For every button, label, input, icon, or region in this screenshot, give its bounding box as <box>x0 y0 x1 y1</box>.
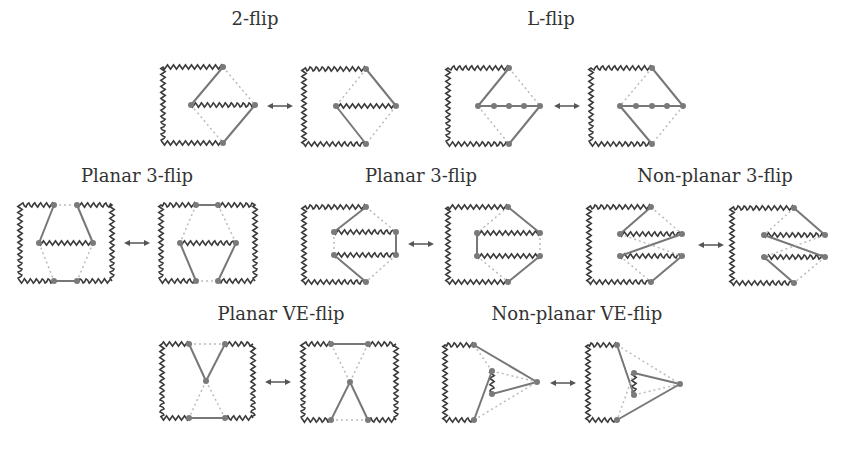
dotted-edge <box>764 208 794 235</box>
vertex-dot <box>822 254 828 260</box>
dotted-edge <box>509 68 540 106</box>
solid-edge <box>764 257 794 283</box>
wavy-boundary <box>443 343 474 422</box>
dotted-edge <box>477 207 508 233</box>
vertex-dot <box>679 253 685 259</box>
vertex-dot <box>537 230 543 236</box>
vertex-dot <box>614 342 620 348</box>
vertex-dot <box>363 141 369 147</box>
wavy-boundary <box>477 254 540 258</box>
wavy-boundary <box>302 205 366 284</box>
vertex-dot <box>90 240 96 246</box>
solid-edge <box>508 256 540 282</box>
vertex-dot <box>188 102 194 108</box>
solid-edge <box>223 105 255 143</box>
wavy-boundary <box>764 233 825 237</box>
dotted-edge <box>620 256 651 282</box>
vertex-dot <box>617 253 623 259</box>
vertex-dot <box>649 103 655 109</box>
vertex-dot <box>679 231 685 237</box>
panel-title-non-planar-3-flip: Non-planar 3-flip <box>637 165 793 186</box>
wavy-boundary <box>477 231 540 235</box>
solid-edge <box>191 67 223 105</box>
vertex-dot <box>474 253 480 259</box>
vertex-dot <box>534 379 540 385</box>
wavy-boundary <box>334 253 396 257</box>
vertex-dot <box>521 103 527 109</box>
wavy-boundary <box>620 232 682 236</box>
vertex-dot <box>347 379 353 385</box>
vertex-dot <box>471 342 477 348</box>
arrowhead-right-icon <box>285 379 291 385</box>
panel-title-planar-3-flip-a: Planar 3-flip <box>81 165 193 186</box>
dotted-edge <box>477 256 508 282</box>
dotted-edge <box>336 69 366 106</box>
vertex-dot <box>331 252 337 258</box>
vertex-dot <box>36 240 42 246</box>
dotted-edge <box>366 255 396 282</box>
vertex-dot <box>614 417 620 423</box>
vertex-dot <box>252 102 258 108</box>
vertex-dot <box>506 65 512 71</box>
vertex-dot <box>489 368 495 374</box>
solid-edge <box>651 256 682 282</box>
vertex-dot <box>505 279 511 285</box>
arrowhead-left-icon <box>124 240 130 246</box>
dotted-edge <box>652 106 683 144</box>
solid-edge <box>77 205 93 243</box>
solid-edge <box>617 384 680 420</box>
vertex-dot <box>664 103 670 109</box>
diagram-drawings <box>18 64 828 423</box>
vertex-dot <box>505 204 511 210</box>
solid-edge <box>331 382 350 420</box>
dotted-edge <box>651 207 682 234</box>
wavy-boundary <box>301 342 331 422</box>
vertex-dot <box>365 341 371 347</box>
arrowhead-left-icon <box>267 103 273 109</box>
wavy-boundary <box>620 254 682 258</box>
arrowhead-left-icon <box>265 379 271 385</box>
dotted-edge <box>39 243 54 281</box>
vertex-dot <box>186 415 192 421</box>
arrowhead-right-icon <box>570 380 576 386</box>
wavy-boundary <box>191 103 255 107</box>
dotted-edge <box>191 105 223 143</box>
vertex-dot <box>537 253 543 259</box>
vertex-dot <box>363 204 369 210</box>
solid-edge <box>478 68 509 106</box>
arrowhead-right-icon <box>287 103 293 109</box>
vertex-dot <box>393 252 399 258</box>
vertex-dot <box>220 140 226 146</box>
solid-edge <box>206 344 225 381</box>
solid-edge <box>509 106 540 144</box>
solid-edge <box>474 345 537 382</box>
vertex-dot <box>51 202 57 208</box>
vertex-dot <box>761 254 767 260</box>
wavy-boundary <box>336 104 396 108</box>
solid-edge <box>39 205 54 243</box>
vertex-dot <box>648 204 654 210</box>
solid-edge <box>336 106 366 144</box>
solid-edge <box>218 243 236 281</box>
dotted-edge <box>492 371 537 382</box>
wavy-boundary <box>764 255 825 259</box>
dotted-edge <box>77 243 93 281</box>
vertex-dot <box>333 103 339 109</box>
vertex-dot <box>677 381 683 387</box>
vertex-dot <box>822 232 828 238</box>
arrowhead-left-icon <box>550 380 556 386</box>
solid-edge <box>508 207 540 233</box>
solid-edge <box>634 373 680 384</box>
vertex-dot <box>631 392 637 398</box>
solid-edge <box>617 345 634 395</box>
arrowhead-left-icon <box>408 241 414 247</box>
wavy-boundary <box>334 230 396 234</box>
dotted-edge <box>180 205 196 243</box>
wavy-boundary <box>586 343 617 422</box>
vertex-dot <box>761 232 767 238</box>
vertex-dot <box>474 230 480 236</box>
solid-edge <box>189 344 206 381</box>
solid-edge <box>334 207 366 232</box>
solid-edge <box>620 207 651 234</box>
vertex-dot <box>193 202 199 208</box>
